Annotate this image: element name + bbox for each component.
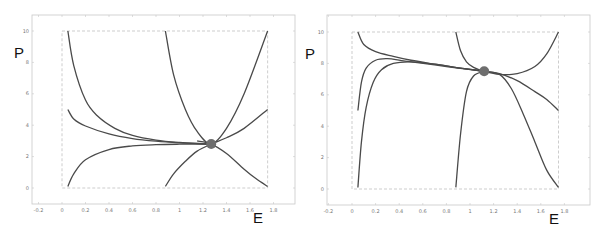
x-tick-label: 0.2: [372, 208, 380, 214]
y-tick-label: 4: [321, 123, 324, 129]
y-tick-label: 0: [321, 186, 324, 192]
y-tick-label: 0: [26, 185, 29, 191]
trajectory-3-curve: [68, 144, 211, 186]
right-phase-plot: -0.200.20.40.60.811.21.41.61.80246810 P …: [302, 0, 604, 235]
x-tick-label: 1: [178, 207, 181, 213]
x-tick-label: 0.4: [395, 208, 403, 214]
x-tick-label: 0.6: [419, 208, 427, 214]
x-tick-label: 1.2: [490, 208, 498, 214]
trajectory-6-curve: [197, 141, 268, 187]
y-tick-label: 2: [321, 154, 324, 160]
trajectory-5-curve: [165, 110, 267, 187]
right-chart-canvas: -0.200.20.40.60.811.21.41.61.80246810: [302, 0, 604, 235]
trajectory-1-curve: [358, 32, 484, 71]
trajectory-7-curve: [484, 71, 558, 187]
x-tick-label: 1.8: [560, 208, 568, 214]
left-chart-canvas: -0.200.20.40.60.811.21.41.61.80246810: [0, 0, 302, 235]
x-tick-label: 1.4: [513, 208, 521, 214]
trajectory-4-curve: [165, 31, 267, 144]
y-tick-label: 4: [26, 122, 29, 128]
x-tick-label: 0: [60, 207, 63, 213]
trajectory-2-curve: [358, 59, 484, 111]
y-tick-label: 10: [23, 28, 29, 34]
y-tick-label: 2: [26, 153, 29, 159]
trajectory-4-curve: [456, 32, 559, 75]
x-tick-label: 0.6: [129, 207, 137, 213]
axes-frame: [32, 15, 295, 204]
y-tick-label: 6: [321, 91, 324, 97]
x-tick-label: -0.2: [34, 207, 44, 213]
trajectory-5-curve: [456, 71, 484, 187]
trajectory-3-curve: [358, 62, 484, 188]
left-x-axis-label: E: [253, 209, 263, 226]
y-tick-label: 8: [26, 59, 29, 65]
x-tick-label: 1.2: [199, 207, 207, 213]
x-tick-label: 0.4: [105, 207, 113, 213]
x-tick-label: 1.8: [270, 207, 278, 213]
left-phase-plot: -0.200.20.40.60.811.21.41.61.80246810 P …: [0, 0, 302, 235]
y-tick-label: 10: [318, 29, 324, 35]
trajectory-6-curve: [484, 71, 558, 110]
x-tick-label: -0.2: [324, 208, 334, 214]
trajectory-2-curve: [68, 110, 211, 145]
right-y-axis-label: P: [305, 45, 315, 62]
x-tick-label: 0.2: [82, 207, 90, 213]
x-tick-label: 0.8: [152, 207, 160, 213]
equilibrium-point-marker: [479, 66, 489, 76]
x-tick-label: 0: [350, 208, 353, 214]
x-tick-label: 1.6: [537, 208, 545, 214]
right-x-axis-label: E: [549, 210, 559, 227]
x-tick-label: 1.4: [223, 207, 231, 213]
left-y-axis-label: P: [14, 44, 24, 61]
x-tick-label: 1: [468, 208, 471, 214]
y-tick-label: 8: [321, 60, 324, 66]
y-tick-label: 6: [26, 90, 29, 96]
plot-boundary-box: [352, 32, 559, 189]
equilibrium-point-marker: [206, 139, 216, 149]
x-tick-label: 0.8: [442, 208, 450, 214]
